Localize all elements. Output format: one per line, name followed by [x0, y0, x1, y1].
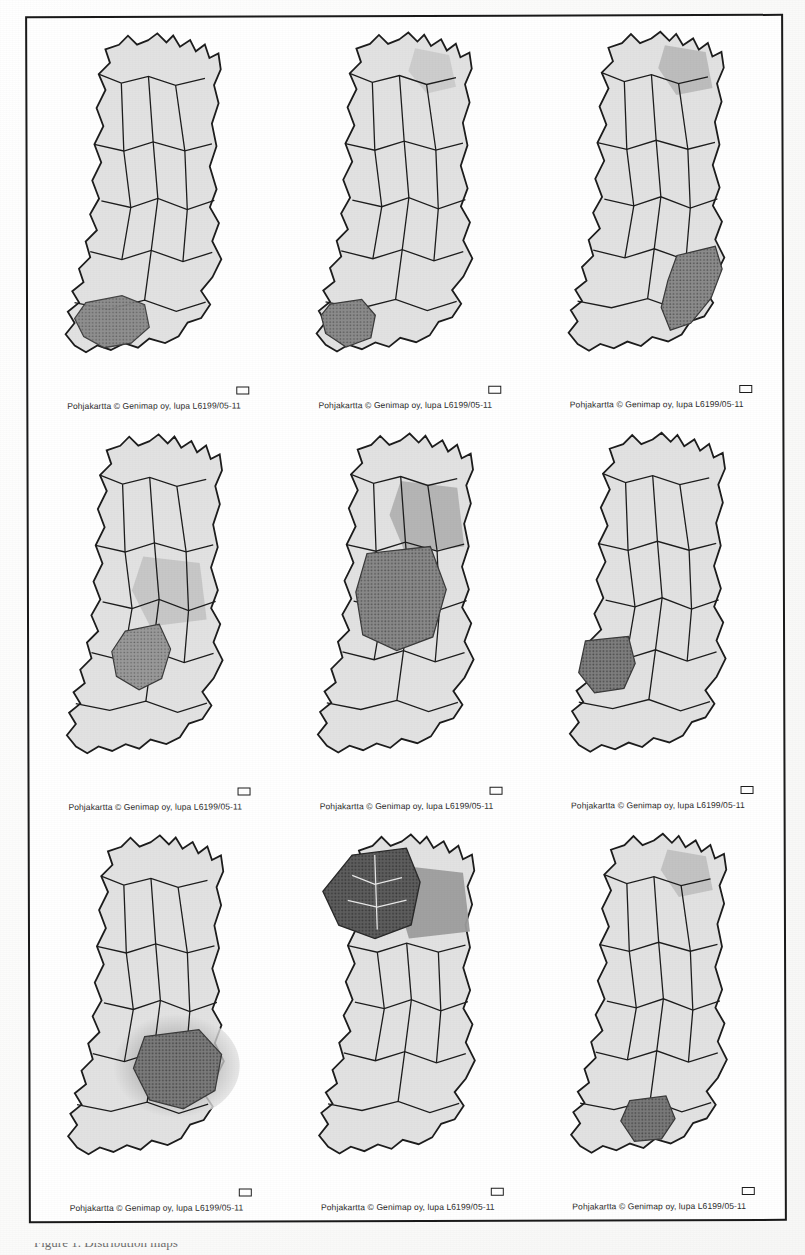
finland-map-svg [532, 820, 784, 1194]
highlight-region [356, 546, 447, 650]
map-caption: Pohjakartta © Genimap oy, lupa L6199/05-… [280, 400, 531, 411]
finland-map [28, 420, 280, 794]
finland-map-svg [531, 419, 783, 793]
map-caption: Pohjakartta © Genimap oy, lupa L6199/05-… [30, 801, 281, 812]
finland-map-svg [281, 821, 533, 1195]
highlight-region [323, 848, 420, 939]
map-panel[interactable]: Pohjakartta © Genimap oy, lupa L6199/05-… [278, 17, 531, 419]
finland-map [278, 19, 530, 393]
finland-map-svg [30, 821, 282, 1195]
map-panel[interactable]: Pohjakartta © Genimap oy, lupa L6199/05-… [281, 819, 534, 1221]
finland-map [531, 419, 783, 793]
map-caption: Pohjakartta © Genimap oy, lupa L6199/05-… [28, 400, 279, 411]
scale-bar [488, 386, 501, 394]
finland-map [280, 420, 532, 794]
scale-bar [490, 1188, 503, 1196]
map-panel[interactable]: Pohjakartta © Genimap oy, lupa L6199/05-… [30, 819, 283, 1221]
finland-map [532, 820, 784, 1194]
cut-off-figure-caption: Figure 1. Distribution maps [34, 1243, 454, 1252]
finland-map-svg [27, 19, 279, 393]
scale-bar [742, 1187, 755, 1195]
map-caption: Pohjakartta © Genimap oy, lupa L6199/05-… [532, 800, 783, 811]
scale-bar [237, 386, 250, 394]
finland-map [30, 821, 282, 1195]
map-panel[interactable]: Pohjakartta © Genimap oy, lupa L6199/05-… [28, 418, 281, 820]
scale-bar [489, 787, 502, 795]
map-panel[interactable]: Pohjakartta © Genimap oy, lupa L6199/05-… [27, 17, 280, 419]
map-panel[interactable]: Pohjakartta © Genimap oy, lupa L6199/05-… [530, 16, 783, 418]
map-caption: Pohjakartta © Genimap oy, lupa L6199/05-… [282, 1202, 533, 1213]
finland-map-svg [530, 18, 782, 392]
map-caption: Pohjakartta © Genimap oy, lupa L6199/05-… [533, 1201, 784, 1212]
finland-map-svg [28, 420, 280, 794]
finland-map [281, 821, 533, 1195]
finland-map-svg [278, 19, 530, 393]
scale-bar [739, 385, 752, 393]
map-panel[interactable]: Pohjakartta © Genimap oy, lupa L6199/05-… [531, 417, 784, 819]
finland-map-svg [280, 420, 532, 794]
finland-map [27, 19, 279, 393]
figure-frame: Pohjakartta © Genimap oy, lupa L6199/05-… [25, 14, 787, 1223]
map-caption: Pohjakartta © Genimap oy, lupa L6199/05-… [281, 801, 532, 812]
scale-bar [238, 787, 251, 795]
map-caption: Pohjakartta © Genimap oy, lupa L6199/05-… [531, 399, 782, 410]
map-panel[interactable]: Pohjakartta © Genimap oy, lupa L6199/05-… [280, 418, 533, 820]
scale-bar [741, 786, 754, 794]
scale-bar [239, 1188, 252, 1196]
finland-map [530, 18, 782, 392]
map-grid: Pohjakartta © Genimap oy, lupa L6199/05-… [27, 16, 785, 1221]
map-panel[interactable]: Pohjakartta © Genimap oy, lupa L6199/05-… [532, 818, 785, 1220]
map-caption: Pohjakartta © Genimap oy, lupa L6199/05-… [31, 1202, 282, 1213]
